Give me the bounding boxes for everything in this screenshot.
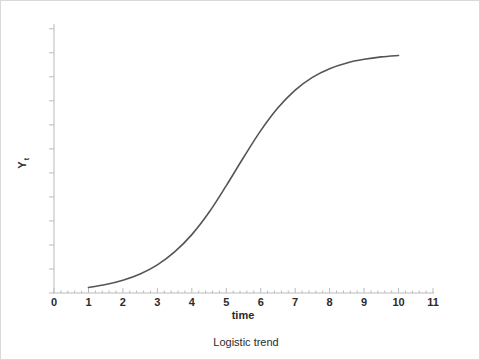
chart-caption: Logistic trend [213, 336, 278, 348]
x-axis-tick-label: 0 [51, 296, 57, 308]
x-axis-major-ticks [54, 288, 433, 293]
x-axis-tick-label: 5 [223, 296, 229, 308]
y-axis-title-subscript: t [23, 157, 30, 160]
x-axis-tick-label: 2 [120, 296, 126, 308]
y-axis-title: Y t [16, 157, 30, 169]
x-axis-tick-label: 4 [189, 296, 196, 308]
x-axis-tick-label: 9 [361, 296, 367, 308]
y-axis-title-main: Y [16, 161, 28, 169]
x-axis-tick-label: 3 [154, 296, 160, 308]
logistic-curve [88, 55, 398, 287]
chart-figure: 01234567891011 time Y t Logistic trend [0, 0, 480, 360]
y-axis-ticks [49, 29, 54, 293]
x-axis-title: time [232, 309, 255, 321]
x-axis-tick-label: 7 [292, 296, 298, 308]
x-axis-tick-label: 1 [85, 296, 91, 308]
x-axis-tick-label: 11 [427, 296, 439, 308]
x-axis-tick-label: 10 [392, 296, 404, 308]
x-axis-tick-label: 6 [258, 296, 264, 308]
x-axis-tick-labels: 01234567891011 [51, 296, 439, 308]
x-axis-tick-label: 8 [327, 296, 333, 308]
logistic-trend-chart: 01234567891011 time Y t Logistic trend [1, 1, 480, 360]
